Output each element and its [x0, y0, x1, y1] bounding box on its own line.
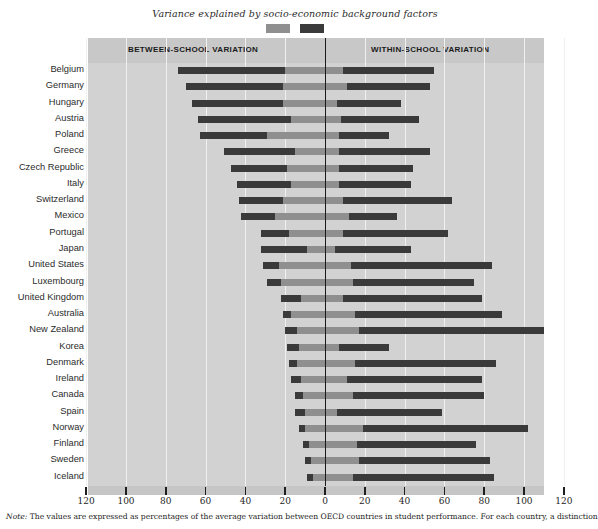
bar-segment-within-explained: [325, 83, 347, 90]
footnote-lead: Note:: [6, 512, 27, 521]
x-axis-tick-label: 80: [160, 496, 171, 506]
bar-segment-within-explained: [325, 213, 349, 220]
bar-segment-between-unexplained: [237, 181, 291, 188]
bar-segment-between-unexplained: [281, 295, 301, 302]
country-label: Luxembourg: [0, 276, 84, 286]
x-axis-tick: [404, 487, 406, 495]
chart-legend: [0, 23, 590, 34]
bar-segment-within-explained: [325, 327, 359, 334]
bar-segment-between-unexplained: [289, 360, 297, 367]
bar-segment-between-unexplained: [224, 148, 296, 155]
x-axis-tick: [165, 487, 167, 495]
country-label: Norway: [0, 422, 84, 432]
bar-segment-between-explained: [307, 246, 325, 253]
bar-segment-between-unexplained: [231, 165, 287, 172]
x-axis-tick-label: 20: [279, 496, 290, 506]
bar-segment-within-explained: [325, 425, 363, 432]
bar-segment-between-unexplained: [263, 262, 279, 269]
bar-segment-between-unexplained: [287, 344, 299, 351]
bar-segment-within-unexplained: [347, 83, 431, 90]
country-label: Mexico: [0, 210, 84, 220]
bar-segment-within-unexplained: [343, 197, 452, 204]
bar-segment-between-explained: [279, 262, 325, 269]
x-axis-tick-label: 80: [478, 496, 489, 506]
bar-segment-within-explained: [325, 295, 343, 302]
bar-segment-between-unexplained: [285, 327, 297, 334]
x-axis-tick-label: 40: [399, 496, 410, 506]
bar-segment-within-unexplained: [363, 425, 528, 432]
x-axis-tick: [563, 487, 565, 495]
bar-row: [88, 112, 544, 128]
x-axis-tick: [324, 487, 326, 495]
country-label: Ireland: [0, 373, 84, 383]
bar-row: [88, 388, 544, 404]
x-axis-tick: [125, 487, 127, 495]
bar-segment-within-unexplained: [343, 295, 482, 302]
bar-segment-between-unexplained: [295, 392, 303, 399]
panel-header-band: BETWEEN-SCHOOL VARIATION WITHIN-SCHOOL V…: [88, 38, 544, 63]
bars-layer: [88, 63, 544, 486]
bar-segment-within-explained: [325, 262, 351, 269]
bar-segment-within-explained: [325, 67, 343, 74]
bar-segment-between-unexplained: [267, 279, 281, 286]
bar-segment-within-unexplained: [349, 213, 397, 220]
x-axis-tick: [205, 487, 207, 495]
bar-segment-within-explained: [325, 441, 357, 448]
country-label: Spain: [0, 406, 84, 416]
country-label: United Kingdom: [0, 292, 84, 302]
bar-row: [88, 340, 544, 356]
bar-segment-within-unexplained: [347, 376, 482, 383]
bar-segment-between-explained: [283, 197, 325, 204]
x-axis-tick-label: 0: [322, 496, 328, 506]
bar-segment-within-explained: [325, 246, 335, 253]
bar-segment-between-unexplained: [283, 311, 291, 318]
bar-segment-within-unexplained: [357, 441, 476, 448]
bar-segment-between-unexplained: [178, 67, 285, 74]
bar-segment-within-explained: [325, 116, 341, 123]
bar-segment-within-unexplained: [351, 262, 492, 269]
country-label: Switzerland: [0, 194, 84, 204]
x-axis-tick: [364, 487, 366, 495]
bar-segment-within-unexplained: [341, 116, 419, 123]
country-label: Iceland: [0, 471, 84, 481]
bar-row: [88, 128, 544, 144]
country-label: Greece: [0, 145, 84, 155]
bar-segment-within-explained: [325, 344, 339, 351]
bar-row: [88, 421, 544, 437]
bar-segment-between-explained: [299, 344, 325, 351]
bar-segment-within-explained: [325, 392, 353, 399]
bar-row: [88, 275, 544, 291]
bar-segment-within-unexplained: [353, 279, 474, 286]
bar-segment-between-explained: [301, 295, 325, 302]
country-label: United States: [0, 259, 84, 269]
bar-row: [88, 226, 544, 242]
x-axis-tick: [444, 487, 446, 495]
country-label: Sweden: [0, 454, 84, 464]
bar-segment-within-unexplained: [355, 311, 502, 318]
bar-segment-within-unexplained: [339, 165, 413, 172]
bar-segment-within-unexplained: [343, 67, 435, 74]
country-label: Finland: [0, 438, 84, 448]
x-axis-tick-label: 120: [78, 496, 95, 506]
country-label: Australia: [0, 308, 84, 318]
bar-segment-within-explained: [325, 132, 339, 139]
bar-segment-within-unexplained: [337, 409, 442, 416]
x-axis-tick-label: 120: [555, 496, 572, 506]
zero-axis-line: [325, 38, 326, 486]
bar-segment-within-explained: [325, 360, 355, 367]
country-label: Denmark: [0, 357, 84, 367]
bar-segment-between-explained: [301, 376, 325, 383]
bar-segment-between-unexplained: [291, 376, 301, 383]
bar-segment-within-unexplained: [359, 457, 490, 464]
bar-segment-between-explained: [291, 181, 325, 188]
bar-segment-within-explained: [325, 311, 355, 318]
x-axis-tick-label: 100: [515, 496, 532, 506]
bar-segment-between-explained: [267, 132, 325, 139]
bar-segment-between-explained: [305, 425, 325, 432]
plot-area: BETWEEN-SCHOOL VARIATION WITHIN-SCHOOL V…: [88, 38, 544, 486]
legend-swatch-unexplained: [299, 23, 325, 34]
bar-row: [88, 193, 544, 209]
bar-segment-within-unexplained: [339, 148, 431, 155]
legend-swatch-explained: [265, 23, 291, 34]
bar-segment-within-unexplained: [343, 230, 448, 237]
